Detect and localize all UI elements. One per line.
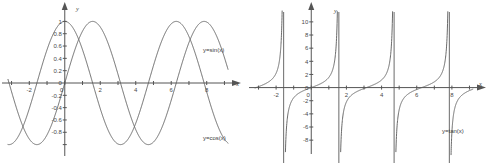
y-tick-label: -8: [303, 137, 309, 143]
x-tick-label: 4: [380, 92, 384, 98]
tangent-curve-annotation: y=tan(x): [442, 128, 464, 134]
x-tick-label: 4: [134, 87, 138, 93]
x-tick-label: 2: [345, 92, 349, 98]
tangent-curve-branch: [341, 12, 393, 152]
y-tick-label: -4: [303, 111, 309, 117]
x-axis-label: x: [235, 80, 239, 87]
tangent-tick-labels: -202468-8-6-4-20246810: [273, 19, 454, 143]
tangent-plot-svg: -202468-8-6-4-20246810 x y y=tan(x): [245, 0, 489, 163]
figure-container: -202468-0.8-0.6-0.4-0.200.20.40.60.81 x …: [0, 0, 489, 163]
cosine-curve-annotation: y=cos(x): [203, 135, 226, 141]
y-tick-label: -0.6: [51, 117, 62, 123]
y-tick-label: 0.6: [53, 43, 62, 49]
y-tick-label: 0.4: [53, 56, 62, 62]
x-tick-label: -2: [273, 92, 279, 98]
tangent-curve-branch: [396, 12, 448, 152]
x-tick-label: 8: [205, 87, 209, 93]
x-axis-label: x: [478, 80, 482, 87]
x-tick-label: 6: [415, 92, 419, 98]
tangent-curve-branch: [255, 11, 282, 88]
y-tick-label: 0.8: [53, 31, 62, 37]
tangent-plot-panel: -202468-8-6-4-20246810 x y y=tan(x): [245, 0, 489, 163]
y-tick-label: 2: [305, 72, 309, 78]
tangent-curve-branch: [451, 89, 473, 155]
y-axis-arrow: [308, 2, 314, 10]
y-tick-label: 1: [58, 19, 62, 25]
y-tick-label: -0.8: [51, 129, 62, 135]
sine-cosine-tick-labels: -202468-0.8-0.6-0.4-0.200.20.40.60.81: [27, 19, 209, 136]
y-tick-label: 4: [305, 59, 309, 65]
y-axis-label: y: [75, 5, 79, 12]
y-tick-label: 0.2: [53, 68, 62, 74]
y-tick-label: 10: [302, 19, 309, 25]
y-tick-label: -2: [303, 98, 309, 104]
y-tick-label: -6: [303, 124, 309, 130]
x-tick-label: 0: [307, 92, 311, 98]
tangent-curves: [255, 11, 473, 155]
y-tick-label: -0.2: [51, 93, 62, 99]
x-tick-label: 6: [170, 87, 174, 93]
y-tick-label: 8: [305, 32, 309, 38]
y-axis-label: y: [333, 7, 337, 14]
x-tick-label: 2: [99, 87, 103, 93]
sine-cosine-plot-svg: -202468-0.8-0.6-0.4-0.200.20.40.60.81 x …: [0, 0, 245, 163]
y-tick-label: 6: [305, 45, 309, 51]
sine-cosine-plot-panel: -202468-0.8-0.6-0.4-0.200.20.40.60.81 x …: [0, 0, 245, 163]
sine-curve-annotation: y=sin(x): [203, 47, 224, 53]
x-tick-label: 8: [450, 92, 454, 98]
y-tick-label: -0.4: [51, 105, 62, 111]
x-tick-label: -2: [27, 87, 33, 93]
y-axis-arrow: [62, 2, 68, 10]
